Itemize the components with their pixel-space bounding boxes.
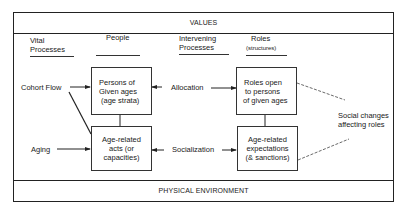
connector-lines xyxy=(0,0,405,213)
label-allocation: Allocation xyxy=(171,83,204,92)
label-aging: Aging xyxy=(31,145,50,154)
acts-line2: acts (or xyxy=(92,144,151,153)
label-socialization: Socialization xyxy=(172,145,214,154)
box-age-related-expectations: Age-related expectations (& sanctions) xyxy=(237,126,298,171)
expectations-line1: Age-related xyxy=(238,135,297,144)
persons-line1: Persons of xyxy=(99,78,151,87)
acts-line1: Age-related xyxy=(92,135,151,144)
box-age-related-acts: Age-related acts (or capacities) xyxy=(91,126,152,171)
persons-line3: (age strata) xyxy=(99,96,151,105)
box-roles-open: Roles open to persons of given ages xyxy=(236,67,297,115)
social-changes-line1: Social changes xyxy=(338,111,389,120)
expectations-line2: expectations xyxy=(238,144,297,153)
roles-open-line2: to persons xyxy=(244,87,296,96)
expectations-line3: (& sanctions) xyxy=(238,153,297,162)
label-cohort-flow: Cohort Flow xyxy=(21,83,61,92)
roles-open-line1: Roles open xyxy=(244,78,296,87)
roles-open-line3: of given ages xyxy=(243,96,296,105)
box-persons-of-given-ages: Persons of Given ages (age strata) xyxy=(91,67,152,115)
persons-line2: Given ages xyxy=(99,87,151,96)
label-social-changes: Social changes affecting roles xyxy=(338,111,389,129)
social-changes-line2: affecting roles xyxy=(338,120,385,129)
acts-line3: capacities) xyxy=(92,153,151,162)
